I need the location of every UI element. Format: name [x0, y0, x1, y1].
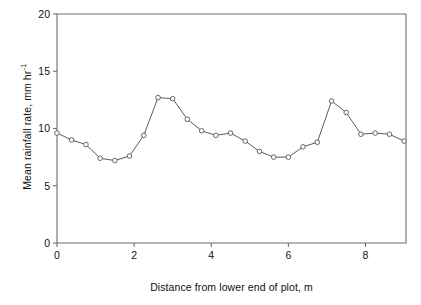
x-tick-label: 0: [54, 249, 60, 261]
data-point-marker: [329, 99, 334, 104]
x-tick-label: 2: [131, 249, 137, 261]
data-point-marker: [402, 139, 407, 144]
series-line: [57, 98, 404, 161]
data-point-marker: [315, 140, 320, 145]
data-point-marker: [113, 158, 118, 163]
data-point-marker: [257, 149, 262, 154]
figure-panel: Mean rainfall rate, mm hr-1 Distance fro…: [0, 0, 421, 305]
data-point-marker: [127, 154, 132, 159]
data-point-marker: [228, 131, 233, 136]
data-point-marker: [199, 128, 204, 133]
x-tick-label: 8: [363, 249, 369, 261]
x-tick-label: 4: [208, 249, 214, 261]
axes: [57, 14, 406, 243]
line-chart: 05101520 02468: [0, 0, 421, 305]
x-tick-label: 6: [285, 249, 291, 261]
y-tick-label: 15: [38, 65, 50, 77]
y-tick-label: 5: [44, 180, 50, 192]
data-point-marker: [185, 117, 190, 122]
data-point-marker: [170, 96, 175, 101]
data-point-marker: [271, 155, 276, 160]
data-point-marker: [387, 132, 392, 137]
data-point-marker: [141, 133, 146, 138]
y-tick-label: 0: [44, 237, 50, 249]
data-point-marker: [55, 131, 60, 136]
data-point-marker: [301, 145, 306, 150]
data-point-marker: [84, 142, 89, 147]
data-point-marker: [156, 95, 161, 100]
data-point-marker: [214, 133, 219, 138]
x-axis-ticks: 02468: [54, 243, 369, 261]
data-point-marker: [359, 132, 364, 137]
y-axis-ticks: 05101520: [38, 8, 57, 249]
data-series: [55, 95, 407, 163]
plot-frame: [57, 14, 406, 243]
y-tick-label: 20: [38, 8, 50, 20]
y-tick-label: 10: [38, 122, 50, 134]
data-point-marker: [69, 138, 74, 143]
data-point-marker: [286, 155, 291, 160]
data-point-marker: [373, 131, 378, 136]
data-point-marker: [98, 156, 103, 161]
data-point-marker: [243, 139, 248, 144]
data-point-marker: [344, 110, 349, 115]
